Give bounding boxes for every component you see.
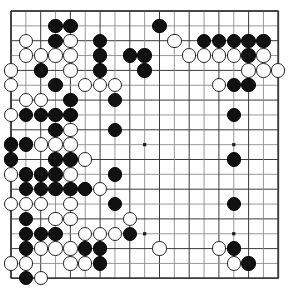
white-stone[interactable] — [212, 78, 226, 92]
white-stone[interactable] — [19, 48, 33, 62]
black-stone[interactable] — [227, 241, 241, 255]
black-stone[interactable] — [227, 197, 241, 211]
go-board-container[interactable] — [0, 0, 288, 306]
black-stone[interactable] — [108, 93, 122, 107]
black-stone[interactable] — [48, 108, 62, 122]
white-stone[interactable] — [78, 256, 92, 270]
white-stone[interactable] — [63, 241, 77, 255]
black-stone[interactable] — [48, 227, 62, 241]
white-stone[interactable] — [123, 212, 137, 226]
white-stone[interactable] — [78, 78, 92, 92]
black-stone[interactable] — [108, 123, 122, 137]
black-stone[interactable] — [241, 78, 255, 92]
black-stone[interactable] — [48, 78, 62, 92]
black-stone[interactable] — [212, 34, 226, 48]
white-stone[interactable] — [63, 197, 77, 211]
black-stone[interactable] — [241, 48, 255, 62]
white-stone[interactable] — [63, 137, 77, 151]
black-stone[interactable] — [197, 34, 211, 48]
black-stone[interactable] — [19, 108, 33, 122]
black-stone[interactable] — [48, 123, 62, 137]
black-stone[interactable] — [93, 241, 107, 255]
white-stone[interactable] — [63, 34, 77, 48]
white-stone[interactable] — [19, 93, 33, 107]
white-stone[interactable] — [227, 48, 241, 62]
black-stone[interactable] — [34, 108, 48, 122]
black-stone[interactable] — [227, 78, 241, 92]
white-stone[interactable] — [4, 78, 18, 92]
black-stone[interactable] — [34, 227, 48, 241]
black-stone[interactable] — [256, 34, 270, 48]
white-stone[interactable] — [4, 167, 18, 181]
black-stone[interactable] — [227, 34, 241, 48]
black-stone[interactable] — [63, 19, 77, 33]
black-stone[interactable] — [19, 182, 33, 196]
white-stone[interactable] — [19, 256, 33, 270]
white-stone[interactable] — [256, 48, 270, 62]
white-stone[interactable] — [34, 48, 48, 62]
white-stone[interactable] — [4, 108, 18, 122]
white-stone[interactable] — [93, 182, 107, 196]
white-stone[interactable] — [19, 34, 33, 48]
white-stone[interactable] — [48, 48, 62, 62]
white-stone[interactable] — [34, 197, 48, 211]
white-stone[interactable] — [152, 241, 166, 255]
white-stone[interactable] — [212, 241, 226, 255]
white-stone[interactable] — [63, 256, 77, 270]
black-stone[interactable] — [78, 241, 92, 255]
black-stone[interactable] — [227, 152, 241, 166]
black-stone[interactable] — [241, 34, 255, 48]
black-stone[interactable] — [4, 137, 18, 151]
black-stone[interactable] — [93, 48, 107, 62]
black-stone[interactable] — [108, 167, 122, 181]
black-stone[interactable] — [19, 271, 33, 285]
black-stone[interactable] — [19, 227, 33, 241]
white-stone[interactable] — [93, 227, 107, 241]
white-stone[interactable] — [34, 93, 48, 107]
black-stone[interactable] — [78, 182, 92, 196]
white-stone[interactable] — [227, 256, 241, 270]
black-stone[interactable] — [48, 34, 62, 48]
black-stone[interactable] — [63, 182, 77, 196]
white-stone[interactable] — [167, 34, 181, 48]
white-stone[interactable] — [19, 197, 33, 211]
black-stone[interactable] — [123, 227, 137, 241]
white-stone[interactable] — [34, 241, 48, 255]
white-stone[interactable] — [34, 271, 48, 285]
black-stone[interactable] — [34, 182, 48, 196]
black-stone[interactable] — [227, 108, 241, 122]
black-stone[interactable] — [152, 19, 166, 33]
black-stone[interactable] — [123, 48, 137, 62]
white-stone[interactable] — [212, 48, 226, 62]
white-stone[interactable] — [93, 78, 107, 92]
black-stone[interactable] — [34, 167, 48, 181]
black-stone[interactable] — [48, 19, 62, 33]
white-stone[interactable] — [63, 63, 77, 77]
black-stone[interactable] — [241, 256, 255, 270]
white-stone[interactable] — [256, 63, 270, 77]
white-stone[interactable] — [4, 63, 18, 77]
white-stone[interactable] — [78, 227, 92, 241]
white-stone[interactable] — [48, 212, 62, 226]
black-stone[interactable] — [19, 167, 33, 181]
white-stone[interactable] — [271, 63, 285, 77]
white-stone[interactable] — [182, 48, 196, 62]
black-stone[interactable] — [93, 256, 107, 270]
black-stone[interactable] — [19, 241, 33, 255]
black-stone[interactable] — [48, 152, 62, 166]
black-stone[interactable] — [108, 197, 122, 211]
white-stone[interactable] — [63, 212, 77, 226]
black-stone[interactable] — [48, 167, 62, 181]
black-stone[interactable] — [93, 63, 107, 77]
white-stone[interactable] — [34, 137, 48, 151]
white-stone[interactable] — [63, 48, 77, 62]
white-stone[interactable] — [197, 48, 211, 62]
black-stone[interactable] — [48, 182, 62, 196]
black-stone[interactable] — [93, 34, 107, 48]
white-stone[interactable] — [63, 123, 77, 137]
white-stone[interactable] — [78, 152, 92, 166]
white-stone[interactable] — [108, 227, 122, 241]
white-stone[interactable] — [241, 63, 255, 77]
black-stone[interactable] — [19, 137, 33, 151]
black-stone[interactable] — [4, 152, 18, 166]
